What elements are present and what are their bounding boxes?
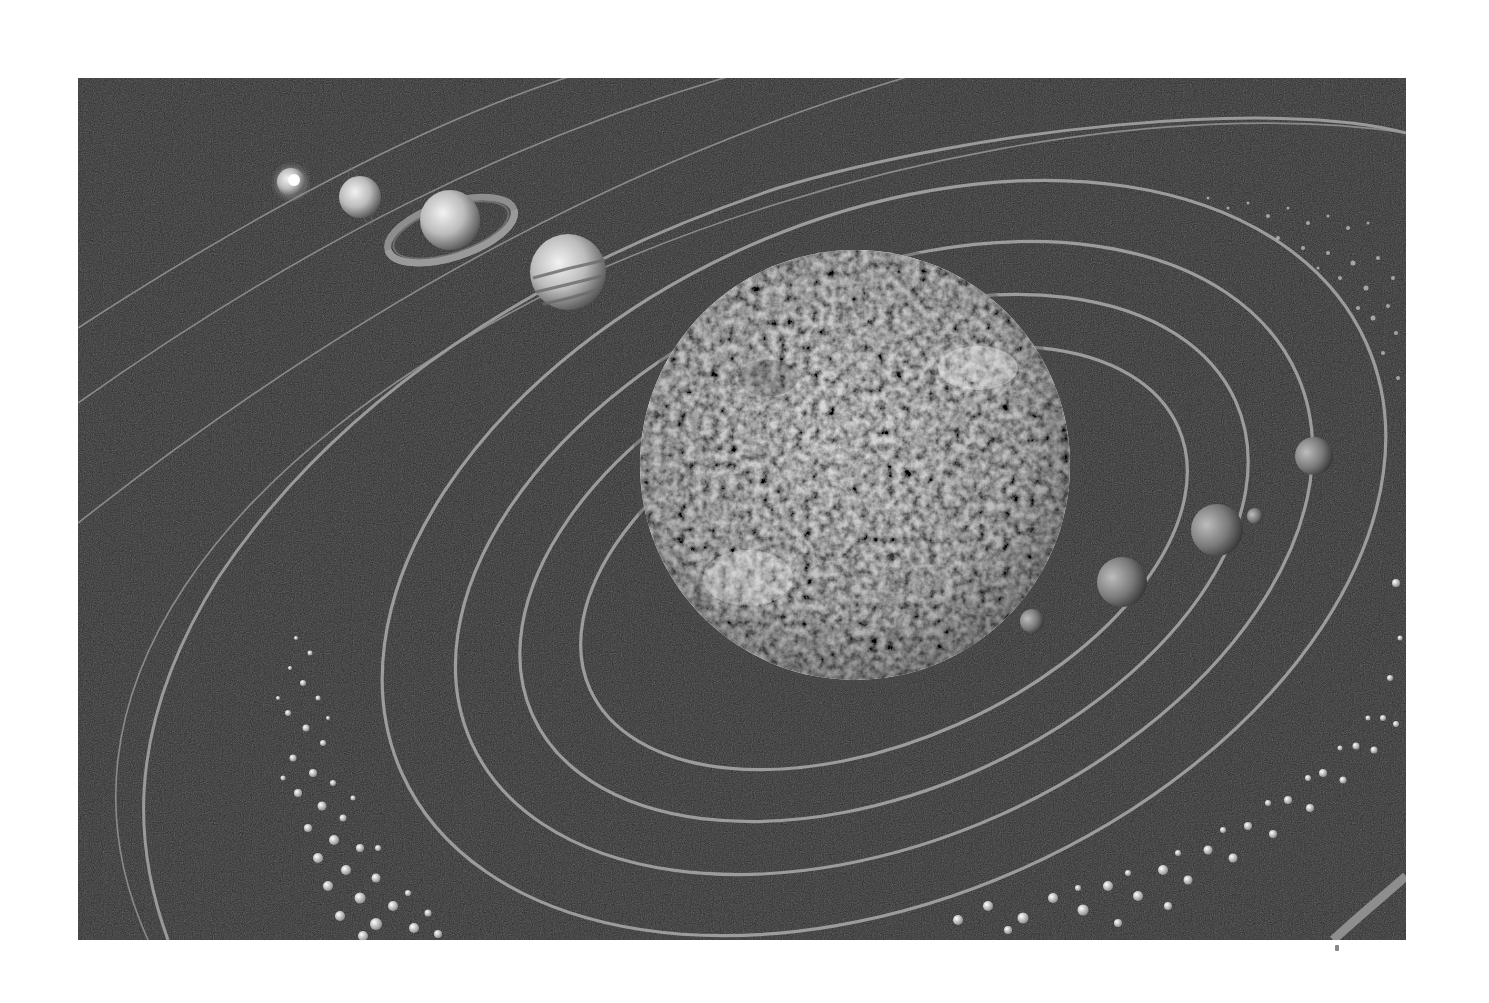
planet-mercury xyxy=(1020,609,1044,633)
sun xyxy=(633,243,1077,687)
planet-earth xyxy=(1191,504,1243,556)
solar-system-illustration xyxy=(78,78,1406,940)
moon xyxy=(1247,508,1263,524)
mouse-cursor xyxy=(1335,945,1339,951)
planet-jupiter xyxy=(530,234,606,310)
planet-mars xyxy=(1295,437,1333,475)
planet-neptune xyxy=(271,162,311,202)
planet-venus xyxy=(1097,557,1147,607)
